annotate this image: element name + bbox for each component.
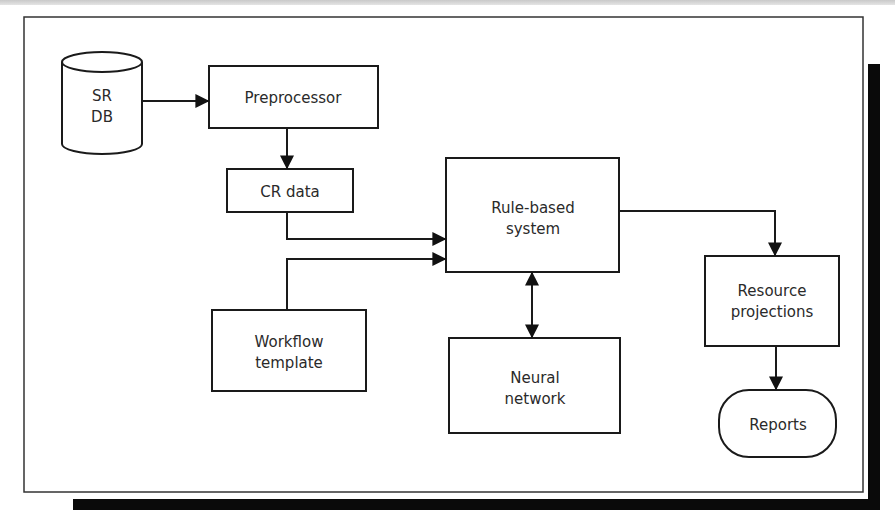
frame-shadow-bottom <box>73 499 880 510</box>
node-cr-data: CR data <box>227 169 353 212</box>
node-sr-db: SR DB <box>62 52 142 154</box>
node-label: Resource <box>738 282 807 300</box>
node-resource-projections: Resource projections <box>705 256 839 346</box>
node-preprocessor: Preprocessor <box>209 66 378 128</box>
node-label: Workflow <box>255 333 324 351</box>
node-label: CR data <box>260 183 319 201</box>
node-workflow-template: Workflow template <box>212 310 366 391</box>
node-label: projections <box>731 303 814 321</box>
node-neural-network: Neural network <box>449 338 620 433</box>
node-label: SR <box>92 87 112 105</box>
node-label: system <box>506 220 560 238</box>
frame-shadow-right <box>868 64 880 510</box>
flow-diagram: SR DB Preprocessor CR data Rule-based sy… <box>0 0 895 525</box>
node-label: Neural <box>510 369 559 387</box>
node-label: Reports <box>749 416 807 434</box>
node-label: network <box>505 390 566 408</box>
node-label: DB <box>91 108 113 126</box>
node-label: Preprocessor <box>245 89 343 107</box>
node-label: Rule-based <box>491 199 574 217</box>
node-reports: Reports <box>719 390 836 457</box>
node-label: template <box>255 354 323 372</box>
node-rule-based-system: Rule-based system <box>446 158 619 272</box>
cylinder-top <box>62 52 142 72</box>
